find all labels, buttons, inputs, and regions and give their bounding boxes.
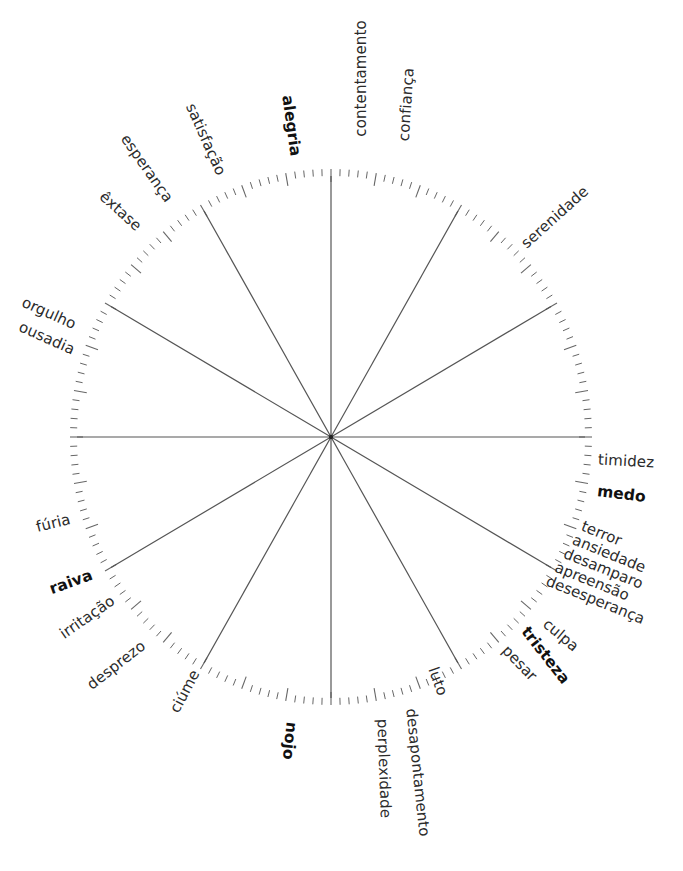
emotion-wheel bbox=[0, 0, 683, 871]
label-perplexidade: perplexidade bbox=[374, 719, 392, 819]
spoke bbox=[331, 307, 551, 438]
spoke bbox=[204, 437, 331, 663]
spoke bbox=[331, 437, 551, 568]
label-nojo: nojo bbox=[279, 721, 298, 760]
spoke bbox=[111, 307, 331, 438]
spoke bbox=[331, 437, 458, 663]
label-timidez: timidez bbox=[598, 453, 655, 471]
spoke bbox=[204, 211, 331, 437]
spoke bbox=[111, 437, 331, 568]
wheel-center bbox=[329, 435, 333, 439]
spoke bbox=[331, 211, 458, 437]
label-contentamento: contentamento bbox=[354, 20, 369, 136]
